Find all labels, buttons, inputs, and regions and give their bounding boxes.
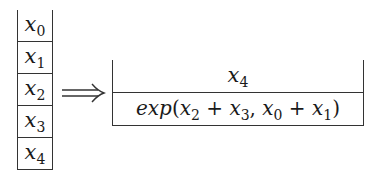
- output-top-cell: x4: [112, 60, 364, 93]
- stack-cell-label: x1: [25, 44, 46, 71]
- output-stack: x4 exp(x2 + x3, x0 + x1): [112, 60, 364, 126]
- stack-cell-label: x3: [25, 108, 46, 135]
- stack-cell: x2: [17, 74, 53, 106]
- stack-cell: x1: [17, 42, 53, 74]
- stack-cell: x0: [17, 10, 53, 42]
- exp-expression: exp(x2 + x3, x0 + x1): [136, 96, 340, 123]
- stack-cell: x4: [17, 138, 53, 170]
- stack-cell-label: x4: [25, 140, 46, 167]
- output-bottom-cell: exp(x2 + x3, x0 + x1): [112, 93, 364, 126]
- output-top-label: x4: [228, 63, 249, 90]
- input-stack: x0 x1 x2 x3 x4: [17, 10, 53, 170]
- stack-cell-label: x0: [25, 12, 46, 39]
- stack-cell: x3: [17, 106, 53, 138]
- implies-arrow-icon: [60, 80, 106, 106]
- stack-cell-label: x2: [25, 76, 46, 103]
